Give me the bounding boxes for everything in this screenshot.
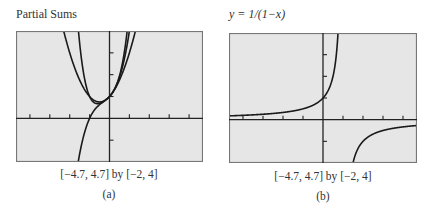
plot-b: [229, 33, 417, 163]
panel-a-window-caption: [−4.7, 4.7] by [−2, 4]: [9, 168, 209, 180]
panel-b-sublabel: (b): [303, 190, 343, 202]
panel-b-window-caption: [−4.7, 4.7] by [−2, 4]: [223, 170, 423, 182]
panel-a-sublabel: (a): [89, 188, 129, 200]
panel-b-title: y = 1/(1−x): [229, 7, 285, 22]
plot-a: [16, 31, 203, 162]
panel-a-title: Partial Sums: [16, 7, 77, 22]
